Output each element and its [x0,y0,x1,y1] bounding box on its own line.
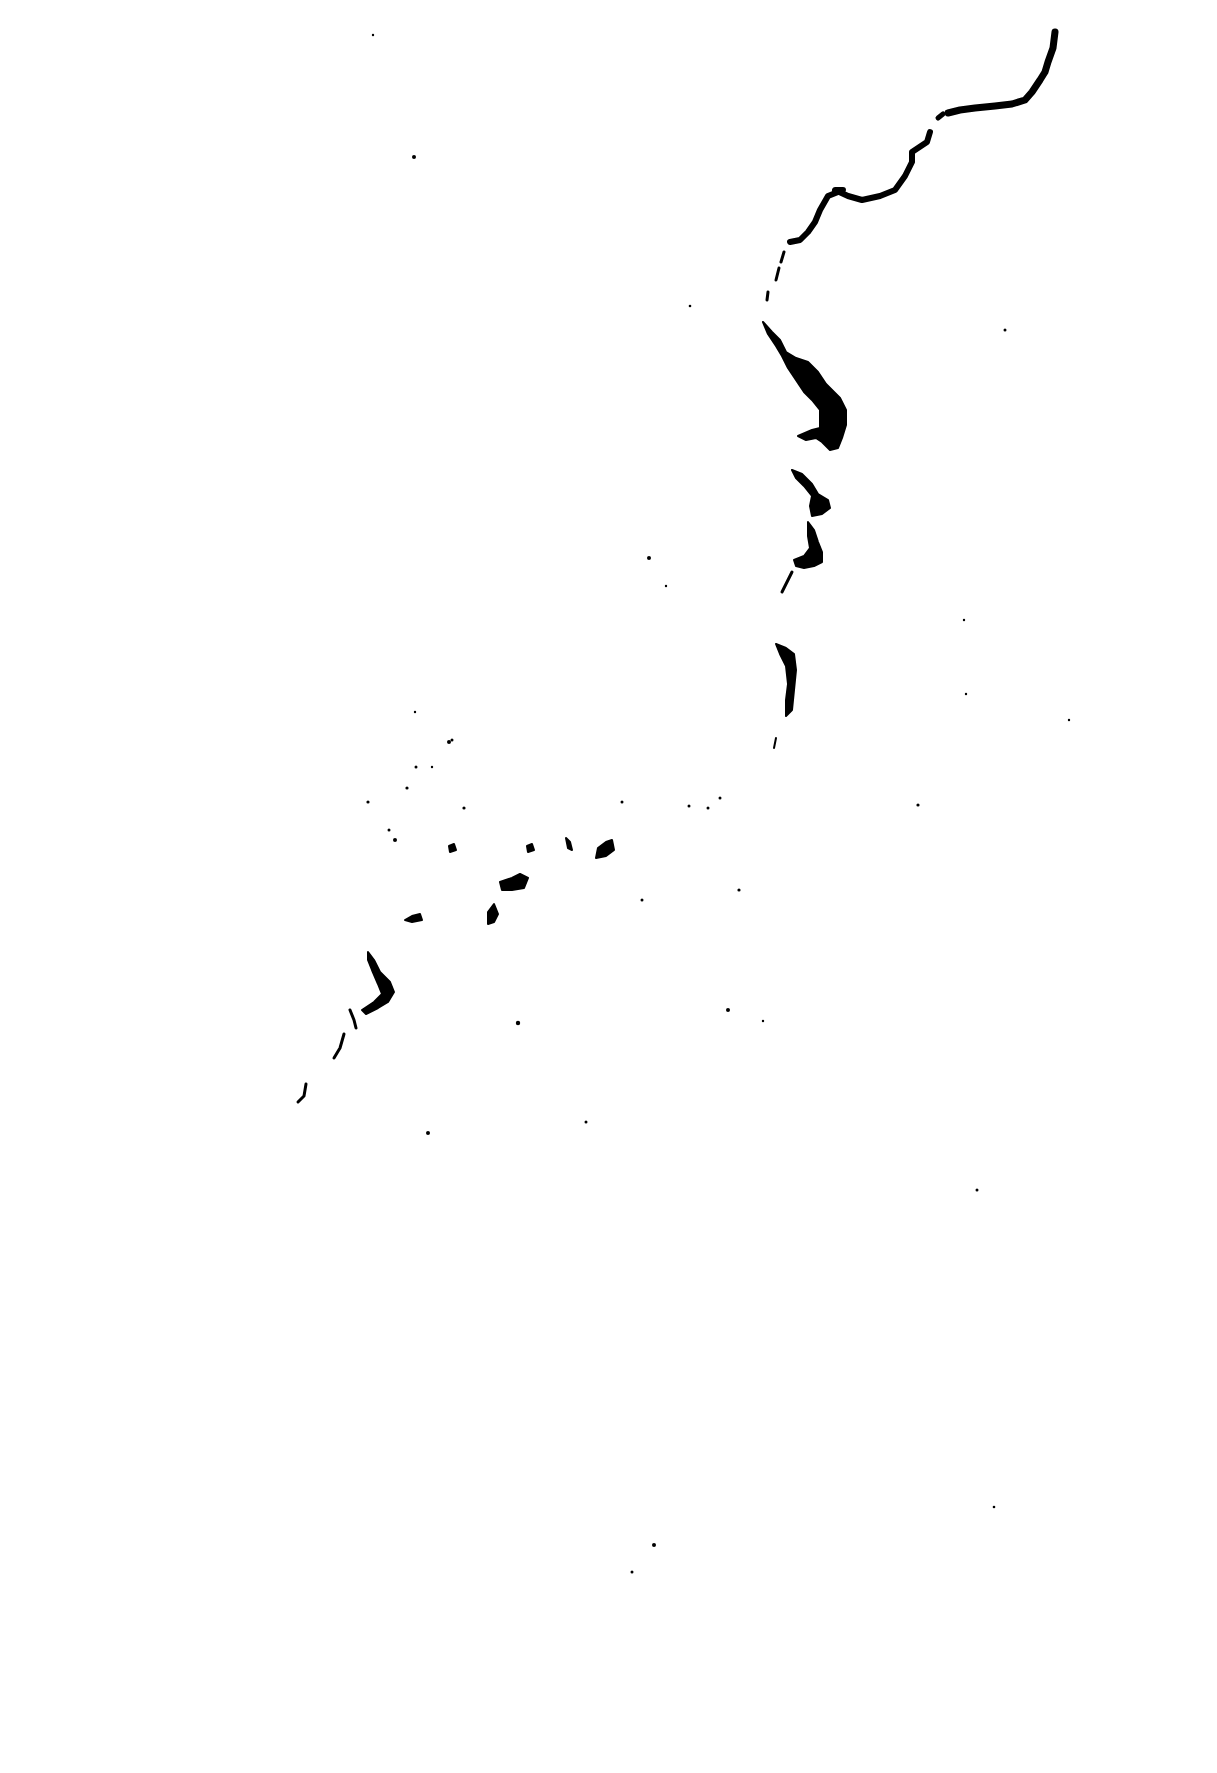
large-landmass [763,322,846,450]
upper-coastline [767,32,1055,300]
ink-coastline-figure [0,0,1217,1773]
mid-islands [774,470,830,748]
specks [366,34,1070,1574]
archipelago [298,838,614,1102]
